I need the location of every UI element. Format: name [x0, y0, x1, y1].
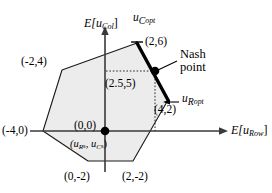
security-comma: , u [86, 138, 97, 149]
y-axis-label-close: ] [114, 16, 118, 30]
y-axis-label: E[uCol] [84, 17, 118, 31]
diagram-canvas [0, 0, 272, 193]
y-axis-label-sub: Col [102, 22, 114, 31]
x-axis-label-close: ] [264, 123, 268, 137]
origin-point-marker [101, 127, 110, 136]
security-level-label: (uRs, uCs) [70, 139, 107, 151]
vertex-label-m4-0: (-4,0) [2, 125, 28, 137]
nash-coordinate-label: (2.5,5) [105, 78, 136, 90]
row-opt-label: uRopt [182, 93, 204, 107]
vertex-label-2-m2: (2,-2) [122, 171, 148, 183]
x-axis-label: E[uRow] [231, 124, 268, 138]
x-axis-label-sub: Row [249, 129, 264, 138]
security-open: (u [70, 138, 79, 149]
vertex-label-0-m2: (0,-2) [64, 171, 90, 183]
x-axis-label-main: E[u [231, 123, 249, 137]
row-opt-sub-sub: opt [194, 97, 204, 106]
origin-coordinate-label: (0,0) [74, 120, 96, 132]
security-close: ) [103, 138, 107, 149]
nash-annotation-line-2: point [180, 61, 206, 74]
vertex-label-2-6: (2,6) [145, 36, 167, 48]
vertex-label-4-2: (4,2) [154, 104, 176, 116]
figure-container: E[uCol] E[uRow] uCopt uRopt (2,6) (-2,4)… [0, 0, 272, 193]
y-axis-label-main: E[u [84, 16, 102, 30]
nash-leader-line [158, 61, 177, 70]
nash-point-annotation: Nash point [180, 48, 206, 74]
nash-point-marker [151, 67, 160, 76]
col-opt-sub-sub: opt [145, 16, 155, 25]
vertex-label-m2-4: (-2,4) [21, 56, 47, 68]
col-opt-label: uCopt [133, 12, 155, 26]
